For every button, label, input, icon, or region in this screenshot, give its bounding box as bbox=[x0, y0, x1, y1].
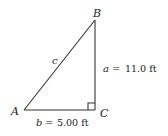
svg-text:=: = bbox=[112, 63, 120, 74]
svg-text:b: b bbox=[36, 117, 42, 128]
vertex-label-c: C bbox=[100, 107, 109, 120]
svg-text:5.00 ft: 5.00 ft bbox=[57, 117, 89, 128]
triangle bbox=[24, 20, 95, 110]
side-label-a: a = 11.0 ft bbox=[103, 63, 157, 74]
side-label-c: c bbox=[52, 55, 58, 66]
side-label-b: b = 5.00 ft bbox=[36, 117, 89, 128]
svg-text:=: = bbox=[45, 117, 53, 128]
right-triangle-diagram: B A C c a = 11.0 ft b = 5.00 ft bbox=[0, 0, 168, 136]
right-angle-marker bbox=[88, 103, 95, 110]
side-c-hypotenuse bbox=[24, 20, 95, 110]
svg-text:a: a bbox=[103, 63, 109, 74]
vertex-label-b: B bbox=[92, 7, 101, 20]
svg-text:11.0 ft: 11.0 ft bbox=[125, 63, 157, 74]
vertex-label-a: A bbox=[10, 105, 19, 118]
